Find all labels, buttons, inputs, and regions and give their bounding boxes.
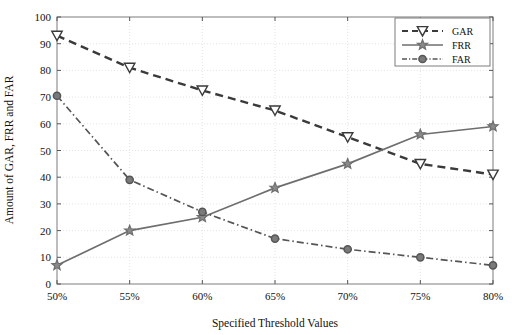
legend-label-far: FAR [452,54,471,65]
marker-circle [419,55,426,62]
y-tick-label: 80 [40,64,52,76]
data-point-far-70% [344,246,351,253]
marker-circle [489,262,496,269]
y-tick-label: 50 [40,145,52,157]
x-tick-label: 70% [338,290,358,302]
x-tick-label: 65% [265,290,285,302]
data-point-far-60% [199,208,206,215]
y-axis-title: Amount of GAR, FRR and FAR [3,75,16,224]
x-tick-label: 60% [192,290,212,302]
x-tick-label: 55% [120,290,140,302]
y-tick-label: 30 [40,198,52,210]
marker-circle [126,176,133,183]
legend-label-frr: FRR [452,40,471,51]
y-tick-label: 20 [40,225,52,237]
x-tick-label: 75% [410,290,430,302]
x-tick-label: 50% [47,290,67,302]
y-tick-label: 90 [40,38,52,50]
legend-marker-far [419,55,426,62]
legend: GARFRRFAR [395,18,490,66]
x-tick-label: 80% [483,290,503,302]
marker-circle [53,92,60,99]
y-tick-label: 100 [35,11,52,23]
data-point-far-75% [417,254,424,261]
data-point-far-80% [489,262,496,269]
y-tick-label: 60 [40,118,52,130]
marker-circle [199,208,206,215]
data-point-far-55% [126,176,133,183]
legend-label-gar: GAR [452,26,473,37]
marker-circle [344,246,351,253]
y-tick-label: 70 [40,91,52,103]
x-axis-title: Specified Threshold Values [212,317,339,330]
data-point-far-50% [53,92,60,99]
chart-figure: 0102030405060708090100 50%55%60%65%70%75… [0,0,524,335]
data-point-far-65% [271,235,278,242]
marker-circle [417,254,424,261]
marker-circle [271,235,278,242]
y-tick-label: 10 [40,251,52,263]
line-chart: 0102030405060708090100 50%55%60%65%70%75… [0,0,524,335]
y-tick-label: 40 [40,171,52,183]
y-tick-label: 0 [46,278,52,290]
